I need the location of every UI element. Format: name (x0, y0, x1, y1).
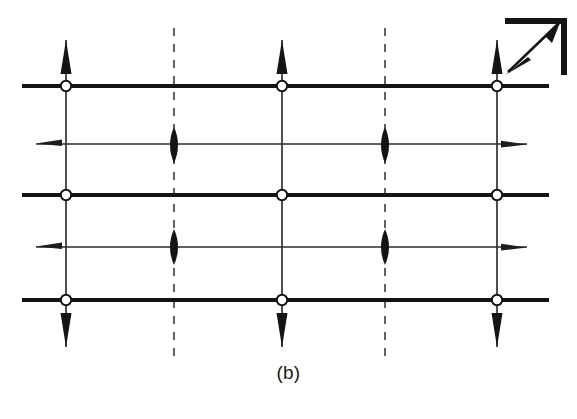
open-circle-marker (61, 81, 71, 91)
open-circle-marker (277, 295, 287, 305)
symmetry-diagram-canvas (0, 0, 577, 419)
open-circle-marker (492, 81, 502, 91)
diagram-background (0, 0, 577, 419)
figure-root: (b) (0, 0, 577, 419)
open-circle-marker (61, 295, 71, 305)
open-circle-marker (492, 190, 502, 200)
open-circle-marker (61, 190, 71, 200)
open-circle-marker (492, 295, 502, 305)
open-circle-marker (277, 190, 287, 200)
open-circle-marker (277, 81, 287, 91)
